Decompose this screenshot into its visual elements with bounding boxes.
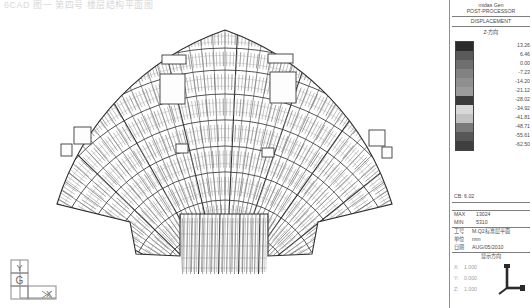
job-value: M.Q2标准层平面 xyxy=(472,229,510,234)
view-axis-glyph xyxy=(496,264,526,296)
legend-swatch xyxy=(456,132,473,141)
axis-x-label: X: xyxy=(454,265,459,270)
date-label: 日期 xyxy=(454,245,464,250)
legend-value: 0.00 xyxy=(520,61,530,66)
legend-value: -14.20 xyxy=(515,79,530,84)
job-label: 工号 xyxy=(454,229,464,234)
scale-factor: CB: 6.02 xyxy=(454,194,474,199)
legend-value: -55.61 xyxy=(515,133,530,138)
legend-swatch xyxy=(456,114,473,123)
model-viewport[interactable] xyxy=(0,8,448,308)
module-title: POST-PROCESSOR xyxy=(452,9,530,14)
axis-y-value: 0.000 xyxy=(464,276,477,281)
axis-y-label: Y: xyxy=(454,276,459,281)
component-label: Z-方向 xyxy=(452,30,530,35)
fem-mesh-graphic xyxy=(0,8,448,308)
legend-swatch xyxy=(456,51,473,60)
axis-triad-g-label: G xyxy=(16,275,24,286)
panel-divider-3 xyxy=(452,202,530,203)
panel-divider-2 xyxy=(452,26,530,27)
legend-swatch xyxy=(456,78,473,87)
legend-value: -28.02 xyxy=(515,97,530,102)
legend-value: 13.26 xyxy=(517,43,530,48)
result-type: DISPLACEMENT xyxy=(452,19,530,24)
unit-value: mm xyxy=(472,237,481,242)
legend-swatch xyxy=(456,60,473,69)
legend-colorbar xyxy=(455,41,474,151)
legend-swatch xyxy=(456,123,473,132)
legend-value: -41.81 xyxy=(515,115,530,120)
legend-value: -21.12 xyxy=(515,88,530,93)
min-value: 5310 xyxy=(476,220,488,225)
info-panel: midas Gen POST-PROCESSOR DISPLACEMENT Z-… xyxy=(449,0,532,308)
legend-value: 6.46 xyxy=(520,52,530,57)
max-value: 13024 xyxy=(476,212,490,217)
legend-swatch xyxy=(456,141,473,150)
legend-value: -48.71 xyxy=(515,124,530,129)
date-value: AUG/05/2010 xyxy=(472,245,503,250)
max-label: MAX xyxy=(454,212,465,217)
axis-z-value: 1.000 xyxy=(464,287,477,292)
legend-swatch xyxy=(456,87,473,96)
axis-triad-widget[interactable]: Y G X xyxy=(6,258,58,304)
axis-z-label: Z: xyxy=(454,287,459,292)
axis-triad-y-label: Y xyxy=(16,263,22,273)
view-direction-title: 显示方向 xyxy=(452,254,530,259)
axis-x-value: 1.000 xyxy=(464,265,477,270)
unit-label: 单位 xyxy=(454,237,464,242)
min-label: MIN xyxy=(454,220,464,225)
legend-swatch xyxy=(456,96,473,105)
legend-value: -62.50 xyxy=(515,142,530,147)
legend-value: -7.23 xyxy=(518,70,530,75)
legend-swatch xyxy=(456,105,473,114)
legend-swatch xyxy=(456,69,473,78)
legend-swatch xyxy=(456,42,473,51)
panel-divider-1 xyxy=(452,16,530,17)
legend-value: -34.92 xyxy=(515,106,530,111)
